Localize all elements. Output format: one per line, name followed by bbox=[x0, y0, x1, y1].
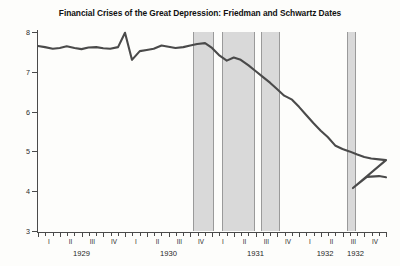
x-axis-tick bbox=[38, 233, 39, 237]
x-axis-tick bbox=[82, 233, 83, 237]
x-axis-minor-tick bbox=[53, 233, 54, 236]
x-axis-quarter-label: I bbox=[301, 238, 319, 245]
series-line bbox=[38, 33, 386, 188]
x-axis-quarter-label: III bbox=[83, 238, 101, 245]
x-axis-tick bbox=[256, 233, 257, 237]
x-axis-quarter-label: IV bbox=[366, 238, 384, 245]
x-axis-quarter-label: IV bbox=[192, 238, 210, 245]
x-axis-tick bbox=[234, 233, 235, 237]
y-axis-label: 6 bbox=[4, 107, 30, 116]
y-axis-label: 8 bbox=[4, 28, 30, 37]
x-axis-minor-tick bbox=[132, 233, 133, 236]
x-axis-quarter-label: III bbox=[344, 238, 362, 245]
x-axis-minor-tick bbox=[241, 233, 242, 236]
x-axis-tick bbox=[60, 233, 61, 237]
x-axis-minor-tick bbox=[306, 233, 307, 236]
x-axis-tick bbox=[103, 233, 104, 237]
x-axis-year-label: 1931 bbox=[233, 249, 279, 258]
x-axis-minor-tick bbox=[89, 233, 90, 236]
x-axis-minor-tick bbox=[314, 233, 315, 236]
x-axis-minor-tick bbox=[111, 233, 112, 236]
x-axis-minor-tick bbox=[176, 233, 177, 236]
x-axis-quarter-label: IV bbox=[105, 238, 123, 245]
x-axis-tick bbox=[321, 233, 322, 237]
x-axis-minor-tick bbox=[45, 233, 46, 236]
x-axis-tick bbox=[147, 233, 148, 237]
x-axis-year-label: 1930 bbox=[146, 249, 192, 258]
x-axis-tick bbox=[364, 233, 365, 237]
x-axis-tick bbox=[277, 233, 278, 237]
x-axis-minor-tick bbox=[285, 233, 286, 236]
x-axis-tick bbox=[343, 233, 344, 237]
x-axis-tick bbox=[299, 233, 300, 237]
x-axis-minor-tick bbox=[219, 233, 220, 236]
x-axis-minor-tick bbox=[379, 233, 380, 236]
chart-title: Financial Crises of the Great Depression… bbox=[0, 8, 400, 18]
x-axis-tick bbox=[169, 233, 170, 237]
x-axis-minor-tick bbox=[350, 233, 351, 236]
x-axis-minor-tick bbox=[263, 233, 264, 236]
x-axis-quarter-label: I bbox=[214, 238, 232, 245]
x-axis-quarter-label: II bbox=[62, 238, 80, 245]
x-axis-year-label: 1932 bbox=[333, 249, 379, 258]
x-axis-minor-tick bbox=[328, 233, 329, 236]
x-axis-minor-tick bbox=[270, 233, 271, 236]
chart-figure: Financial Crises of the Great Depression… bbox=[0, 0, 400, 266]
x-axis-tick bbox=[190, 233, 191, 237]
x-axis-tick bbox=[212, 233, 213, 237]
x-axis-quarter-label: III bbox=[257, 238, 275, 245]
y-axis-label: 4 bbox=[4, 187, 30, 196]
x-axis-quarter-label: III bbox=[170, 238, 188, 245]
x-axis-quarter-label: IV bbox=[279, 238, 297, 245]
x-axis-quarter-label: I bbox=[40, 238, 58, 245]
x-axis-quarter-label: II bbox=[236, 238, 254, 245]
y-axis-label: 3 bbox=[4, 227, 30, 236]
x-axis-minor-tick bbox=[357, 233, 358, 236]
x-axis-minor-tick bbox=[140, 233, 141, 236]
x-axis-tick bbox=[386, 233, 387, 237]
x-axis-minor-tick bbox=[227, 233, 228, 236]
x-axis-quarter-label: II bbox=[149, 238, 167, 245]
x-axis-minor-tick bbox=[205, 233, 206, 236]
x-axis-minor-tick bbox=[74, 233, 75, 236]
x-axis-minor-tick bbox=[67, 233, 68, 236]
x-axis-minor-tick bbox=[161, 233, 162, 236]
x-axis-minor-tick bbox=[96, 233, 97, 236]
x-axis-minor-tick bbox=[198, 233, 199, 236]
x-axis-minor-tick bbox=[292, 233, 293, 236]
x-axis-year-label: 1929 bbox=[59, 249, 105, 258]
x-axis-minor-tick bbox=[118, 233, 119, 236]
x-axis-quarter-label: II bbox=[323, 238, 341, 245]
x-axis-minor-tick bbox=[335, 233, 336, 236]
x-axis-minor-tick bbox=[154, 233, 155, 236]
x-axis-tick bbox=[125, 233, 126, 237]
x-axis-minor-tick bbox=[372, 233, 373, 236]
y-axis-label: 5 bbox=[4, 147, 30, 156]
x-axis-minor-tick bbox=[248, 233, 249, 236]
y-axis-label: 7 bbox=[4, 67, 30, 76]
plot-area bbox=[38, 32, 386, 231]
money-stock-series bbox=[38, 32, 386, 231]
x-axis-minor-tick bbox=[183, 233, 184, 236]
x-axis-quarter-label: I bbox=[127, 238, 145, 245]
